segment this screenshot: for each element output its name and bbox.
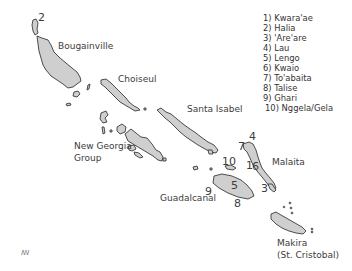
island-ng-islet (163, 158, 166, 161)
marker-10: 10 (222, 156, 236, 167)
marker-9: 9 (205, 186, 212, 197)
island-gizo (110, 130, 112, 132)
legend: 1) Kwara'ae 2) Halia 3) 'Are'are 4) Lau … (263, 13, 333, 113)
island-choiseul-islet (144, 108, 146, 110)
island-makira (271, 212, 306, 234)
label-makira: Makira (277, 238, 307, 248)
islet-east-4 (283, 206, 285, 208)
marker-5: 5 (231, 180, 238, 191)
legend-item-6: 6) Kwaio (263, 63, 333, 73)
legend-item-3: 3) 'Are'are (263, 33, 333, 43)
island-savo (193, 166, 198, 170)
label-santa-isabel: Santa Isabel (187, 104, 242, 114)
island-tetepare (134, 152, 143, 158)
marker-6: 6 (252, 161, 259, 172)
legend-item-4: 4) Lau (263, 43, 333, 53)
legend-item-9: 9) Ghari (263, 93, 333, 103)
island-san-jorge (208, 150, 213, 154)
label-new-georgia: New Georgia (74, 141, 132, 151)
legend-item-8: 8) Talise (263, 83, 333, 93)
label-new-georgia-group: Group (74, 153, 101, 163)
island-santa-isabel (157, 108, 218, 153)
island-treasury (66, 103, 71, 106)
island-ranongga (102, 127, 105, 134)
island-kolombangara (117, 124, 126, 134)
islet-makira-1 (311, 228, 313, 230)
label-choiseul: Choiseul (118, 74, 156, 84)
label-bougainville: Bougainville (58, 41, 113, 51)
legend-item-5: 5) Lengo (263, 53, 333, 63)
legend-item-1: 1) Kwara'ae (263, 13, 333, 23)
legend-item-7: 7) To'abaita (263, 73, 333, 83)
island-shortland (73, 91, 80, 97)
island-vella-lavella (100, 111, 108, 123)
marker-7: 7 (238, 141, 245, 152)
marker-2: 2 (38, 12, 45, 23)
label-makira-alt: (St. Cristobal) (277, 250, 339, 260)
marker-4: 4 (249, 131, 256, 142)
islet-makira-2 (311, 231, 313, 233)
marker-3: 3 (261, 183, 268, 194)
island-fauro (87, 84, 90, 90)
island-russell (210, 168, 212, 170)
legend-item-2: 2) Halia (263, 23, 333, 33)
islet-east-1 (289, 202, 291, 204)
islet-east-2 (290, 207, 292, 209)
islet-east-3 (291, 212, 293, 214)
marker-8: 8 (234, 198, 241, 209)
corner-mark: ꟿ (21, 249, 29, 257)
legend-item-10: 10) Nggela/Gela (263, 103, 333, 113)
label-malaita: Malaita (272, 157, 305, 167)
